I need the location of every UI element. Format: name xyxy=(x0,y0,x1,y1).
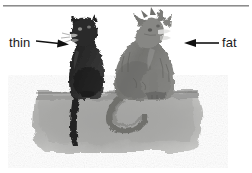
annotation-arrow-fat-left xyxy=(183,37,219,49)
illustration-figure: thin fat xyxy=(0,0,252,173)
cats-illustration xyxy=(0,0,252,173)
annotation-label-thin: thin xyxy=(9,36,30,49)
annotation-arrow-thin-right xyxy=(36,36,70,50)
annotation-label-fat: fat xyxy=(222,36,237,49)
